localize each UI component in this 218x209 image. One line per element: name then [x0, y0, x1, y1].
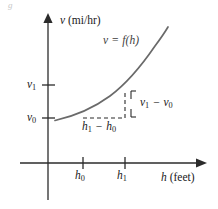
x-tick-label-h0: h0 [75, 170, 85, 183]
curve-label-argument: (h) [126, 34, 139, 46]
y-axis-units: (mi/hr) [68, 14, 101, 26]
x-tick-label-h1: h1 [117, 170, 127, 183]
y-axis-title: v (mi/hr) [60, 15, 101, 27]
delta-v-annotation: v1 − v0 [140, 97, 173, 110]
delta-v-subtrahend-subscript: 0 [169, 101, 173, 110]
x-axis-units: (feet) [170, 171, 195, 183]
delta-h-minus-sign: − [95, 120, 104, 132]
y-axis-arrowhead [43, 13, 52, 23]
delta-h-annotation: h1 − h0 [82, 121, 116, 134]
x-tick-h0-subscript: 0 [81, 174, 85, 183]
y-tick-label-v0: v0 [27, 112, 36, 125]
y-tick-v0-subscript: 0 [32, 116, 36, 125]
x-axis-arrowhead [196, 158, 207, 167]
y-tick-v1-subscript: 1 [32, 83, 36, 92]
figure-container: g v (mi/hr) h (feet) [0, 0, 218, 209]
x-axis-title: h (feet) [161, 172, 195, 184]
delta-h-subtrahend-subscript: 0 [112, 125, 116, 134]
y-tick-label-v1: v1 [27, 79, 36, 92]
curve-equation-label: v = f(h) [103, 35, 139, 47]
x-tick-h1-subscript: 1 [123, 174, 127, 183]
delta-v-minus-sign: − [152, 96, 161, 108]
